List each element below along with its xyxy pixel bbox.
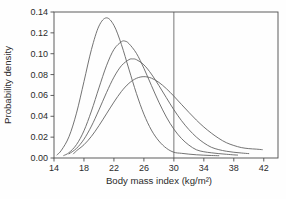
- x-tick-label: 42: [259, 163, 269, 173]
- x-tick-label: 14: [49, 163, 59, 173]
- y-axis-label: Probability density: [2, 46, 13, 124]
- bmi-density-curve-4: [73, 77, 262, 154]
- axis-ticks: 14182226303438420.000.020.040.060.080.10…: [30, 7, 268, 173]
- x-tick-label: 34: [199, 163, 209, 173]
- y-tick-label: 0.08: [30, 70, 48, 80]
- density-curves: [57, 18, 262, 156]
- y-tick-label: 0.06: [30, 90, 48, 100]
- x-axis-label: Body mass index (kg/m²): [106, 175, 212, 186]
- x-tick-label: 22: [109, 163, 119, 173]
- y-tick-label: 0.12: [30, 28, 48, 38]
- y-tick-label: 0.04: [30, 111, 48, 121]
- x-tick-label: 18: [79, 163, 89, 173]
- bmi-density-chart: 14182226303438420.000.020.040.060.080.10…: [0, 0, 286, 199]
- x-tick-label: 30: [169, 163, 179, 173]
- bmi-probability-density-figure: 14182226303438420.000.020.040.060.080.10…: [0, 0, 286, 199]
- y-tick-label: 0.00: [30, 153, 48, 163]
- x-tick-label: 38: [229, 163, 239, 173]
- x-tick-label: 26: [139, 163, 149, 173]
- y-tick-label: 0.10: [30, 49, 48, 59]
- plot-frame: [54, 12, 278, 158]
- bmi-density-curve-3: [69, 59, 249, 154]
- y-tick-label: 0.14: [30, 7, 48, 17]
- y-tick-label: 0.02: [30, 132, 48, 142]
